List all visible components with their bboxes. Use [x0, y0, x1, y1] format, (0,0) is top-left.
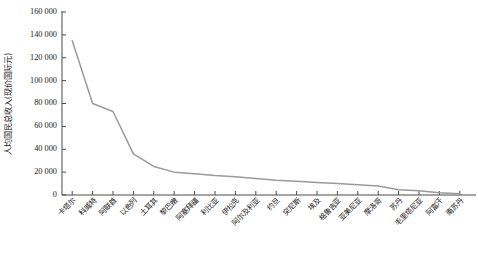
- x-tick-label: 土耳其: [138, 196, 159, 217]
- y-axis-title-label: 人均国民总收入(现价国际元): [3, 53, 13, 155]
- y-tick-label: 60 000: [34, 121, 57, 130]
- y-tick-label: 120 000: [30, 53, 57, 62]
- chart-container: 人均国民总收入(现价国际元) 020 00040 00060 00080 000…: [0, 0, 478, 258]
- y-tick-label: 100 000: [30, 76, 57, 85]
- x-tick-label: 以色列: [118, 196, 139, 217]
- y-tick-label: 0: [53, 190, 57, 199]
- x-tick-label: 摩洛哥: [362, 196, 383, 217]
- x-tick-label: 阿联酋: [97, 196, 118, 217]
- x-tick-label: 亚美尼亚: [337, 195, 364, 222]
- y-tick-label: 20 000: [34, 167, 57, 176]
- x-tick-label: 卡塔尔: [56, 195, 78, 217]
- x-tick-label: 南苏丹: [444, 196, 465, 217]
- x-tick-label: 苏丹: [388, 196, 404, 212]
- x-tick-label: 阿塞拜疆: [174, 195, 201, 222]
- x-tick-label: 科威特: [77, 195, 99, 217]
- x-axis-ticks: [72, 191, 460, 195]
- x-tick-label: 埃及: [306, 195, 323, 212]
- y-axis-title: 人均国民总收入(现价国际元): [3, 53, 13, 155]
- x-tick-label: 约旦: [265, 196, 281, 212]
- y-tick-label: 40 000: [34, 144, 57, 153]
- x-tick-label: 利比亚: [199, 195, 221, 217]
- x-tick-label: 突尼斯: [281, 195, 303, 217]
- y-tick-label: 80 000: [34, 98, 57, 107]
- y-tick-label: 140 000: [30, 30, 57, 39]
- data-series-line: [72, 41, 460, 194]
- y-tick-label: 160 000: [30, 7, 57, 16]
- x-tick-label: 阿富汗: [424, 195, 446, 217]
- line-chart: 人均国民总收入(现价国际元) 020 00040 00060 00080 000…: [0, 0, 478, 258]
- y-axis-ticks: 020 00040 00060 00080 000100 000120 0001…: [30, 7, 66, 199]
- x-axis-labels: 卡塔尔科威特阿联酋以色列土耳其黎巴嫩阿塞拜疆利比亚伊拉克阿尔及利亚约旦突尼斯埃及…: [56, 195, 465, 227]
